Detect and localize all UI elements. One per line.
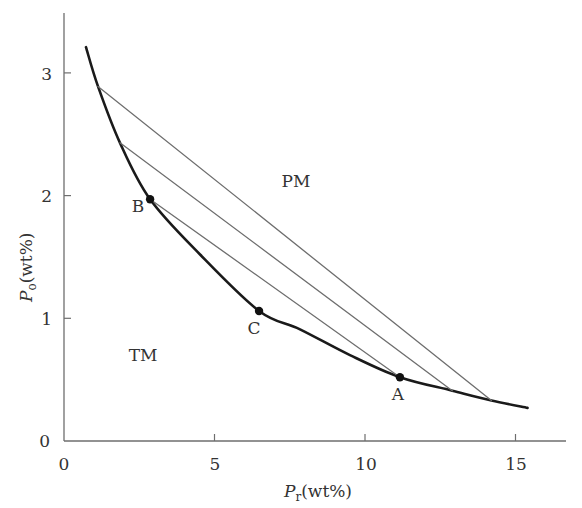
x-axis-symbol: P xyxy=(283,481,296,501)
y-axis-title: Po(wt%) xyxy=(16,233,39,304)
region-label-tm: TM xyxy=(129,345,158,365)
y-tick-label-3: 3 xyxy=(41,64,52,84)
tie-line-3 xyxy=(150,199,400,377)
x-axis-unit: (wt%) xyxy=(301,481,352,501)
y-tick-label-2: 2 xyxy=(41,186,52,206)
point-label-a: A xyxy=(391,384,405,404)
x-tick-label-10: 10 xyxy=(355,454,377,474)
x-tick-label-0: 0 xyxy=(59,454,70,474)
point-a-marker xyxy=(396,373,404,381)
x-tick-label-5: 5 xyxy=(210,454,221,474)
x-tick-label-15: 15 xyxy=(505,454,527,474)
y-tick-label-1: 1 xyxy=(41,309,52,329)
point-label-c: C xyxy=(247,318,260,338)
y-axis-unit: (wt%) xyxy=(16,233,36,284)
point-b-marker xyxy=(146,195,154,203)
point-c-marker xyxy=(255,307,263,315)
y-tick-label-0: 0 xyxy=(39,431,50,451)
point-label-b: B xyxy=(132,196,145,216)
axes xyxy=(64,13,566,441)
region-label-pm: PM xyxy=(282,171,311,191)
y-axis-symbol: P xyxy=(16,290,36,303)
x-axis-title: Pr(wt%) xyxy=(283,481,352,504)
phase-diagram-chart: 0 5 10 15 0 1 2 3 Pr(wt%) Po(wt%) PM TM … xyxy=(0,0,582,508)
y-axis-subscript: o xyxy=(25,283,39,290)
axis-ticks xyxy=(64,73,516,441)
